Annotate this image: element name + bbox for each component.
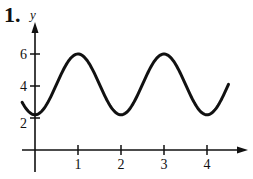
data-curve	[22, 54, 228, 115]
x-axis-arrow-icon	[237, 147, 248, 154]
y-axis-arrow-icon	[32, 22, 39, 33]
x-tick-label: 3	[161, 157, 168, 172]
y-ticks: 246	[20, 47, 40, 131]
x-tick-label: 2	[118, 157, 125, 172]
y-tick-label: 2	[20, 116, 27, 131]
y-tick-label: 4	[20, 79, 27, 94]
x-tick-label: 1	[75, 157, 82, 172]
sinusoid-chart: y 1234 246	[0, 0, 253, 179]
y-tick-label: 6	[20, 47, 27, 62]
y-axis-label: y	[28, 7, 36, 22]
x-tick-label: 4	[204, 157, 211, 172]
x-ticks: 1234	[75, 145, 211, 172]
